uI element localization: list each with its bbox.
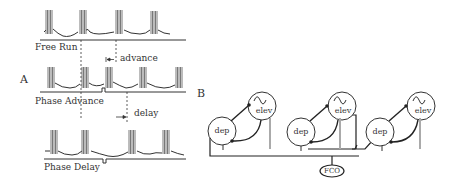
unit-3-elev-label: elev: [415, 107, 432, 115]
advance-label: advance: [120, 54, 158, 63]
panel-a-label: A: [20, 74, 28, 85]
unit-2-dep-label: dep: [294, 128, 309, 136]
unit-1-dep-label: dep: [215, 127, 230, 135]
delay-label: delay: [134, 109, 158, 118]
unit-3: [366, 92, 435, 151]
trace-free-run-bursts: [46, 10, 157, 34]
unit-1-elev-label: elev: [256, 107, 273, 115]
phase-advance-label: Phase Advance: [35, 97, 104, 106]
unit-2-elev-label: elev: [335, 107, 352, 115]
panel-b-label: B: [197, 88, 205, 99]
fco-label: FCO: [324, 168, 340, 175]
free-run-label: Free Run: [35, 43, 77, 52]
trace-phase-advance-bursts: [48, 67, 182, 88]
unit-1: [208, 92, 276, 150]
trace-phase-delay-bursts: [51, 130, 169, 154]
unit-3-dep-label: dep: [373, 128, 388, 136]
unit-2: [287, 92, 356, 151]
delay-arrow: [116, 116, 126, 119]
trace-free-run: [40, 29, 186, 40]
advance-arrow: [106, 57, 114, 62]
phase-delay-label: Phase Delay: [44, 163, 100, 172]
trace-phase-advance: [40, 82, 186, 92]
figure-canvas: [0, 0, 456, 188]
